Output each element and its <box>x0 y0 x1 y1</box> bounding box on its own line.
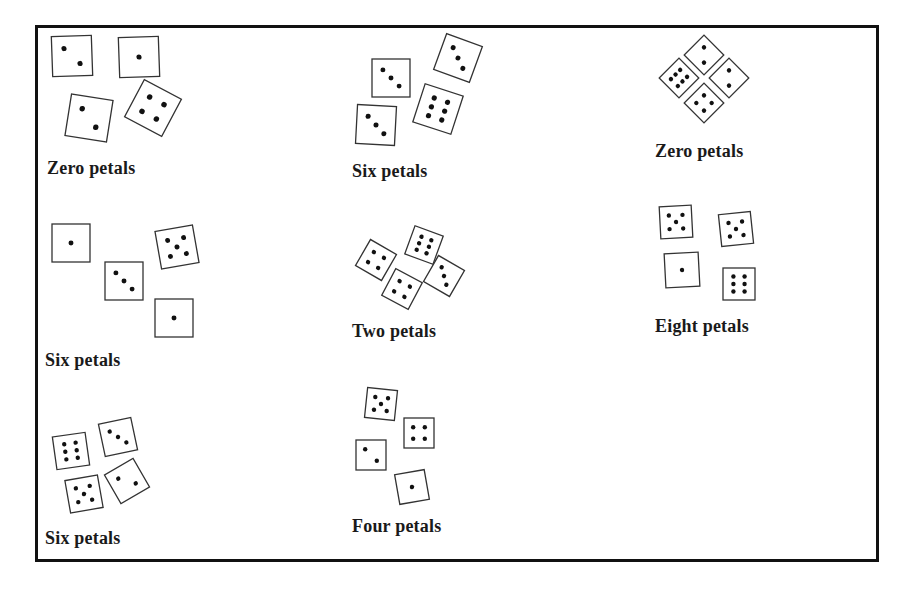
group-label-g3: Zero petals <box>655 141 743 162</box>
group-label-g6: Eight petals <box>655 316 749 337</box>
group-label-g8: Four petals <box>352 516 441 537</box>
group-label-g1: Zero petals <box>47 158 135 179</box>
figure-frame <box>35 25 879 562</box>
group-label-g4: Six petals <box>45 350 121 371</box>
group-label-g2: Six petals <box>352 161 428 182</box>
group-label-g7: Six petals <box>45 528 121 549</box>
group-label-g5: Two petals <box>352 321 436 342</box>
